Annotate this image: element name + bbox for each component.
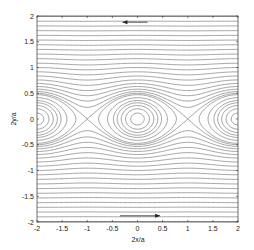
- streamline: [37, 106, 238, 133]
- streamlines: [37, 16, 238, 221]
- x-tick-label: 0: [136, 225, 140, 232]
- y-tick-label: -0.5: [22, 141, 34, 148]
- x-tick-label: -2: [34, 225, 40, 232]
- x-tick-label: -1.5: [56, 225, 68, 232]
- axes-frame: [37, 16, 238, 222]
- y-tick-label: 2: [30, 13, 34, 20]
- streamline: [37, 95, 238, 144]
- streamline: [37, 16, 238, 221]
- streamline: [37, 98, 238, 141]
- y-tick-label: 0.5: [24, 90, 34, 97]
- x-axis-label: 2x/a: [131, 236, 144, 243]
- x-tick-label: 1.5: [208, 225, 218, 232]
- streamline: [37, 31, 238, 208]
- arrowhead-icon: [155, 214, 160, 218]
- streamline: [37, 59, 238, 180]
- streamline: [37, 40, 238, 198]
- streamline: [37, 83, 238, 154]
- y-tick-label: 1: [30, 64, 34, 71]
- y-tick-label: -2: [28, 219, 34, 226]
- x-tick-label: 1: [186, 225, 190, 232]
- x-tick-label: -1: [84, 225, 90, 232]
- streamline: [37, 103, 238, 135]
- streamline: [37, 21, 238, 217]
- y-axis-label: 2y/a: [10, 112, 18, 125]
- streamline: [37, 45, 238, 194]
- streamline: [37, 92, 238, 147]
- y-tick-label: -1.5: [22, 193, 34, 200]
- streamline: [37, 35, 238, 202]
- streamline: [37, 49, 238, 188]
- y-tick-label: -1: [28, 167, 34, 174]
- y-tick-label: 1.5: [24, 38, 34, 45]
- axis-ticks: -2-1.5-1-0.500.511.52-2-1.5-1-0.500.511.…: [22, 13, 240, 233]
- x-tick-label: 2: [236, 225, 240, 232]
- streamline: [37, 87, 238, 152]
- x-tick-label: -0.5: [106, 225, 118, 232]
- streamline: [37, 72, 238, 166]
- streamline-plot: -2-1.5-1-0.500.511.52-2-1.5-1-0.500.511.…: [0, 0, 254, 250]
- x-tick-label: 0.5: [158, 225, 168, 232]
- y-tick-label: 0: [30, 116, 34, 123]
- arrowhead-icon: [122, 20, 127, 24]
- streamline: [37, 113, 238, 125]
- streamline: [37, 89, 238, 149]
- streamline: [37, 76, 238, 162]
- streamline: [37, 93, 238, 144]
- streamline: [37, 109, 238, 129]
